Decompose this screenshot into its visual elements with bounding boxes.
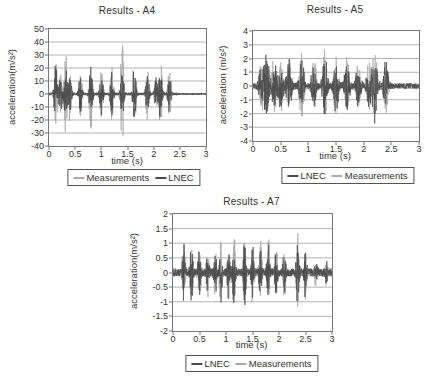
legend-line-swatch [287, 175, 298, 177]
y-tick-mark [249, 31, 253, 32]
legend-entry: LNEC [191, 358, 229, 369]
y-tick-mark [169, 316, 173, 317]
y-tick-label: 0 [243, 82, 248, 91]
y-tick-label: 0 [163, 268, 168, 277]
y-tick-label: 2 [243, 54, 248, 63]
y-tick-label: -1.5 [152, 312, 168, 321]
y-tick-label: 4 [243, 27, 248, 36]
y-tick-label: 20 [34, 64, 44, 73]
measurements-line [49, 45, 206, 136]
y-tick-label: -3 [240, 123, 248, 132]
legend-label: LNEC [300, 170, 325, 181]
legend-entry: Measurements [332, 170, 408, 181]
y-tick-mark [249, 113, 253, 114]
y-tick-label: 1 [243, 68, 248, 77]
y-tick-mark [45, 42, 49, 43]
y-tick-mark [45, 68, 49, 69]
y-tick-mark [249, 58, 253, 59]
y-tick-label: 50 [34, 25, 44, 34]
y-tick-mark [169, 272, 173, 273]
legend: MeasurementsLNEC [67, 169, 200, 186]
legend-line-swatch [236, 363, 247, 365]
legend-line-swatch [332, 175, 343, 177]
legend: LNECMeasurements [281, 167, 414, 184]
y-tick-mark [45, 133, 49, 134]
x-axis-label: time (s) [252, 150, 418, 161]
y-tick-mark [169, 228, 173, 229]
plot-area: 21.510.50-0.5-1-1.5-200.511.522.53 [172, 213, 333, 332]
legend-label: LNEC [204, 358, 229, 369]
waveform-svg [173, 214, 332, 331]
y-tick-label: 3 [243, 40, 248, 49]
y-tick-mark [249, 127, 253, 128]
waveform-svg [49, 29, 206, 146]
y-tick-label: -1 [160, 297, 168, 306]
legend-entry: LNEC [155, 172, 193, 183]
plot-area: 43210-1-2-3-400.511.522.53 [252, 30, 420, 142]
legend-label: Measurements [86, 172, 149, 183]
y-tick-label: 30 [34, 51, 44, 60]
legend-entry: Measurements [73, 172, 149, 183]
y-tick-mark [249, 86, 253, 87]
legend-entry: Measurements [236, 358, 312, 369]
y-tick-label: 2 [163, 210, 168, 219]
y-tick-label: -2 [240, 109, 248, 118]
y-tick-mark [169, 214, 173, 215]
y-tick-mark [169, 243, 173, 244]
y-tick-mark [249, 72, 253, 73]
y-axis-label: acceleration(m/s²) [6, 49, 17, 125]
figure-canvas: Results - A4 acceleration(m/s²) 50403020… [0, 0, 425, 386]
chart-results-a5: Results - A5 acceleration (m/s²) 43210-1… [212, 0, 425, 192]
y-tick-mark [249, 44, 253, 45]
y-tick-label: -4 [240, 137, 248, 146]
y-tick-label: -10 [31, 103, 44, 112]
y-tick-mark [169, 301, 173, 302]
y-tick-mark [169, 257, 173, 258]
y-tick-mark [45, 81, 49, 82]
y-tick-label: -30 [31, 129, 44, 138]
legend-entry: LNEC [287, 170, 325, 181]
x-axis-label: time (s) [48, 155, 206, 166]
y-tick-label: -1 [240, 95, 248, 104]
legend-line-swatch [191, 363, 202, 365]
y-tick-mark [249, 99, 253, 100]
chart-title: Results - A4 [48, 5, 206, 16]
y-tick-mark [169, 287, 173, 288]
y-tick-label: -2 [160, 327, 168, 336]
chart-title: Results - A7 [172, 196, 331, 207]
y-tick-label: -40 [31, 142, 44, 151]
chart-title: Results - A5 [252, 4, 418, 15]
y-tick-mark [45, 29, 49, 30]
y-tick-label: 0.5 [155, 253, 168, 262]
y-tick-label: 10 [34, 77, 44, 86]
legend-line-swatch [73, 177, 84, 179]
y-tick-label: 1.5 [155, 224, 168, 233]
legend: LNECMeasurements [185, 355, 318, 372]
y-tick-label: 1 [163, 239, 168, 248]
plot-area: 50403020100-10-20-30-4000.511.522.53 [48, 28, 207, 147]
y-axis-label: acceleration(m/s²) [128, 233, 139, 309]
y-tick-label: -20 [31, 116, 44, 125]
y-tick-mark [45, 107, 49, 108]
lnec-line [49, 66, 206, 117]
y-axis-label: acceleration (m/s²) [217, 46, 228, 125]
chart-results-a7: Results - A7 acceleration(m/s²) 21.510.5… [100, 193, 340, 386]
legend-label: Measurements [345, 170, 408, 181]
y-tick-mark [45, 94, 49, 95]
y-tick-label: -0.5 [152, 283, 168, 292]
chart-results-a4: Results - A4 acceleration(m/s²) 50403020… [0, 0, 212, 192]
legend-line-swatch [155, 177, 166, 179]
waveform-svg [253, 31, 419, 141]
legend-label: LNEC [168, 172, 193, 183]
x-axis-label: time (s) [172, 339, 331, 350]
y-tick-mark [45, 120, 49, 121]
y-tick-label: 40 [34, 38, 44, 47]
y-tick-mark [45, 55, 49, 56]
y-tick-label: 0 [39, 90, 44, 99]
legend-label: Measurements [249, 358, 312, 369]
